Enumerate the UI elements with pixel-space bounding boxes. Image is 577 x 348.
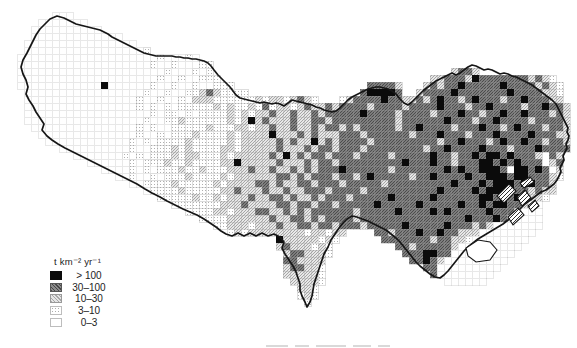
grid-cell <box>290 152 297 159</box>
grid-cell <box>472 138 479 145</box>
grid-cell <box>101 82 108 89</box>
grid-cell <box>430 194 437 201</box>
grid-cell <box>332 159 339 166</box>
grid-cell <box>94 96 101 103</box>
grid-cell <box>500 257 507 264</box>
grid-cell <box>199 131 206 138</box>
grid-cell <box>290 117 297 124</box>
grid-cell <box>101 103 108 110</box>
grid-cell <box>73 110 80 117</box>
grid-cell <box>465 187 472 194</box>
grid-cell <box>444 138 451 145</box>
grid-cell <box>479 82 486 89</box>
grid-cell <box>241 89 248 96</box>
grid-cell <box>241 222 248 229</box>
grid-cell <box>227 159 234 166</box>
grid-cell <box>409 229 416 236</box>
grid-cell <box>416 236 423 243</box>
grid-cell <box>465 96 472 103</box>
grid-cell <box>115 152 122 159</box>
grid-cell <box>164 145 171 152</box>
grid-cell <box>451 222 458 229</box>
grid-cell <box>346 145 353 152</box>
grid-cell <box>248 124 255 131</box>
grid-cell <box>143 173 150 180</box>
grid-cell <box>430 117 437 124</box>
grid-cell <box>437 145 444 152</box>
grid-cell <box>430 166 437 173</box>
grid-cell <box>255 138 262 145</box>
grid-cell <box>283 264 290 271</box>
grid-cell <box>220 166 227 173</box>
grid-cell <box>297 257 304 264</box>
grid-cell <box>437 180 444 187</box>
grid-cell <box>136 159 143 166</box>
grid-cell <box>115 54 122 61</box>
grid-cell <box>535 173 542 180</box>
grid-cell <box>143 166 150 173</box>
grid-cell <box>101 68 108 75</box>
legend-row: 0–3 <box>50 316 112 328</box>
grid-cell <box>486 271 493 278</box>
grid-cell <box>521 117 528 124</box>
grid-cell <box>360 166 367 173</box>
grid-cell <box>507 96 514 103</box>
grid-cell <box>73 54 80 61</box>
grid-cell <box>297 208 304 215</box>
grid-cell <box>444 131 451 138</box>
grid-cell <box>409 222 416 229</box>
grid-cell <box>528 110 535 117</box>
grid-cell <box>269 96 276 103</box>
grid-cell <box>66 117 73 124</box>
grid-cell <box>437 243 444 250</box>
grid-cell <box>521 145 528 152</box>
grid-cell <box>437 208 444 215</box>
grid-cell <box>339 131 346 138</box>
grid-cell <box>220 131 227 138</box>
grid-cell <box>353 110 360 117</box>
grid-cell <box>479 96 486 103</box>
grid-cell <box>549 124 556 131</box>
grid-cell <box>108 68 115 75</box>
grid-cell <box>59 82 66 89</box>
grid-cell <box>500 243 507 250</box>
grid-cell <box>367 180 374 187</box>
grid-cell <box>290 236 297 243</box>
grid-cell <box>241 208 248 215</box>
grid-cell <box>500 145 507 152</box>
grid-cell <box>59 138 66 145</box>
grid-cell <box>556 117 563 124</box>
grid-cell <box>311 152 318 159</box>
grid-cell <box>178 117 185 124</box>
grid-cell <box>297 194 304 201</box>
grid-cell <box>535 138 542 145</box>
grid-cell <box>199 152 206 159</box>
grid-cell <box>45 33 52 40</box>
grid-cell <box>283 194 290 201</box>
grid-cell <box>304 173 311 180</box>
grid-cell <box>332 117 339 124</box>
grid-cell <box>486 264 493 271</box>
grid-cell <box>150 68 157 75</box>
grid-cell <box>472 222 479 229</box>
grid-cell <box>290 187 297 194</box>
grid-cell <box>486 82 493 89</box>
grid-cell <box>395 229 402 236</box>
grid-cell <box>500 138 507 145</box>
grid-cell <box>395 110 402 117</box>
grid-cell <box>458 152 465 159</box>
grid-cell <box>416 145 423 152</box>
grid-cell <box>87 68 94 75</box>
grid-cell <box>241 201 248 208</box>
grid-cell <box>381 145 388 152</box>
grid-cell <box>31 47 38 54</box>
grid-cell <box>108 54 115 61</box>
grid-cell <box>269 194 276 201</box>
grid-cell <box>241 215 248 222</box>
grid-cell <box>409 215 416 222</box>
grid-cell <box>192 89 199 96</box>
grid-cell <box>283 180 290 187</box>
grid-cell <box>290 194 297 201</box>
grid-cell <box>59 96 66 103</box>
grid-cell <box>80 75 87 82</box>
